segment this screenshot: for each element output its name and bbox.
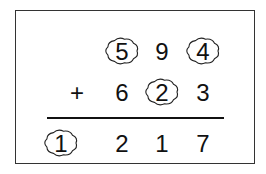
addition-diagram: + 5946231217 — [0, 0, 266, 174]
result-digit: 7 — [196, 130, 209, 157]
result-digit: 2 — [115, 130, 128, 157]
result-digit-covered: 1 — [54, 130, 67, 157]
row1-digit-covered: 5 — [115, 38, 128, 65]
plus-sign: + — [70, 79, 84, 106]
row1-digit-covered: 4 — [196, 38, 209, 65]
row2-digit: 6 — [115, 79, 128, 106]
row2-digit-covered: 2 — [155, 79, 168, 106]
row2-digit: 3 — [196, 79, 209, 106]
result-digit: 1 — [155, 130, 168, 157]
row1-digit: 9 — [155, 38, 168, 65]
